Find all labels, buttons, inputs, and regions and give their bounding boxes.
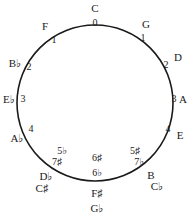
accidental-count-n-db2: 7♯ — [52, 157, 62, 167]
accidental-count-n-db1: 5♭ — [57, 146, 67, 156]
key-label-gb: G♭ — [90, 203, 103, 214]
key-label-bb: B♭ — [9, 58, 22, 69]
key-label-ab: A♭ — [10, 133, 23, 144]
accidental-count-n-b1: 5♯ — [130, 146, 140, 156]
accidental-count-n-d: 2 — [164, 60, 169, 70]
accidental-count-n-fs2: 6♭ — [92, 168, 102, 178]
accidental-count-n-e: 4 — [166, 124, 171, 134]
key-label-f: F — [42, 21, 48, 32]
key-label-db: D♭ — [39, 171, 52, 182]
key-label-e: E — [177, 130, 184, 141]
key-label-cs: C♯ — [36, 183, 49, 194]
accidental-count-n-g: 1 — [141, 33, 146, 43]
key-label-d: D — [174, 52, 182, 63]
accidental-count-n-f: 1 — [52, 35, 57, 45]
accidental-count-n-fs1: 6♯ — [92, 153, 102, 163]
key-label-g: G — [142, 19, 150, 30]
key-label-eb: E♭ — [3, 94, 15, 105]
accidental-count-n-eb: 3 — [21, 94, 26, 104]
accidental-count-n-bb: 2 — [27, 62, 32, 72]
key-label-c: C — [91, 3, 98, 14]
key-label-cb: C♭ — [151, 181, 164, 192]
circle-of-fifths-diagram: CGDAEBC♭F♯G♭D♭C♯A♭E♭B♭F012345♯7♭6♯6♭5♭7♯… — [0, 0, 189, 216]
accidental-count-n-a: 3 — [172, 94, 177, 104]
accidental-count-n-ab: 4 — [29, 124, 34, 134]
accidental-count-n-c: 0 — [93, 18, 98, 28]
key-label-a: A — [179, 94, 187, 105]
key-label-fs: F♯ — [91, 188, 103, 199]
accidental-count-n-b2: 7♭ — [134, 157, 144, 167]
